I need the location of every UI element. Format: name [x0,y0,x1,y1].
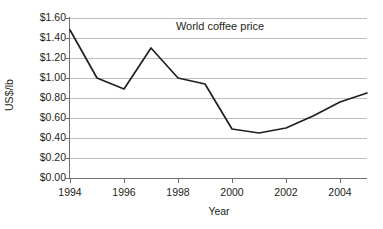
gridline [70,58,367,59]
x-axis-line [69,178,367,179]
x-tick-label: 1998 [158,186,198,198]
y-axis-label: US$/lb [3,65,15,125]
y-tick-label: $0.80 [18,91,66,103]
gridline [70,118,367,119]
gridline [70,38,367,39]
x-axis-label: Year [70,205,368,217]
gridline [70,18,367,19]
chart-title: World coffee price [130,20,310,32]
y-tick-label: $0.60 [18,111,66,123]
gridline [70,78,367,79]
gridline [70,138,367,139]
y-tick-label: $0.40 [18,131,66,143]
y-tick-label: $1.40 [18,31,66,43]
x-tick-label: 2004 [320,186,360,198]
y-tick-label: $1.00 [18,71,66,83]
y-tick-label: $0.00 [18,171,66,183]
y-tick-label: $1.20 [18,51,66,63]
x-tick-label: 2002 [266,186,306,198]
gridline [70,158,367,159]
gridline [70,98,367,99]
x-tick-label: 2000 [212,186,252,198]
y-axis-line [69,17,70,179]
y-tick-label: $0.20 [18,151,66,163]
x-tick-label: 1994 [50,186,90,198]
y-tick-label: $1.60 [18,11,66,23]
coffee-price-chart: World coffee price US$/lb Year $0.00$0.2… [0,0,383,229]
x-tick-label: 1996 [104,186,144,198]
